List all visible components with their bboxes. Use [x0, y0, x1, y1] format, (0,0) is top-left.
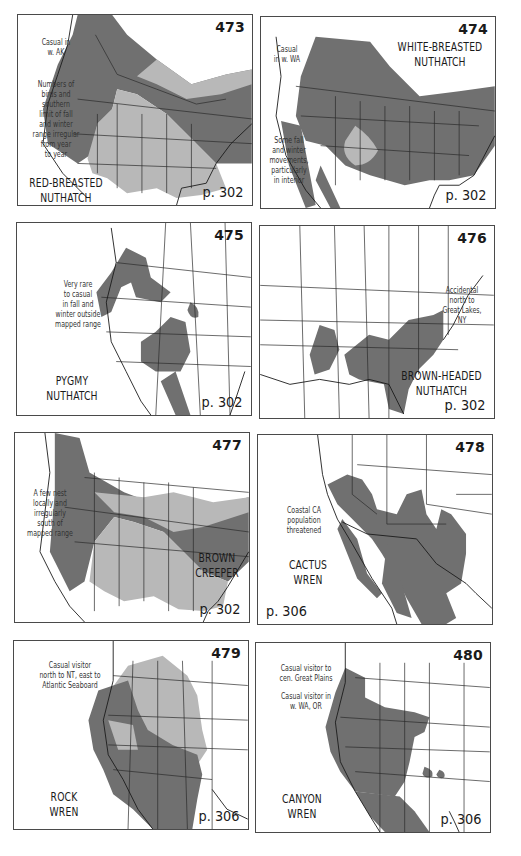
species-name: RED-BREASTED NUTHATCH — [27, 175, 106, 205]
range-southeast — [344, 310, 443, 414]
species-name: PYGMY NUTHATCH — [43, 373, 100, 403]
range-map-474: 474 WHITE-BREASTED NUTHATCH Casual in w.… — [260, 16, 496, 209]
page-reference: p. 306 — [199, 808, 240, 824]
range-note: Numbers of birds and southern limit of f… — [25, 79, 86, 159]
map-number: 475 — [214, 227, 244, 243]
page-reference: p. 302 — [445, 397, 486, 413]
resident-range-south — [355, 791, 429, 832]
range-map-478: 478 Coastal CA population threatened CAC… — [257, 434, 493, 625]
page-reference: p. 306 — [441, 811, 482, 827]
species-name: CANYON WREN — [277, 791, 326, 821]
range-note: Casual visitor to cen. Great Plains — [274, 663, 339, 683]
species-name: ROCK WREN — [39, 789, 88, 819]
species-name: CACTUS WREN — [283, 557, 332, 587]
species-name: BROWN CREEPER — [192, 550, 241, 580]
page-reference: p. 302 — [200, 601, 241, 617]
species-name: WHITE-BREASTED NUTHATCH — [395, 39, 485, 69]
map-number: 476 — [457, 230, 487, 246]
resident-range — [326, 668, 430, 797]
range-note: Very rare to casual in fall and winter o… — [50, 279, 106, 329]
range-note: Accidental north to Great Lakes, NY — [437, 285, 488, 325]
range-west — [310, 325, 340, 374]
range-note: Casual visitor in w. WA, OR — [274, 691, 339, 711]
range-map-480: 480 Casual visitor to cen. Great Plains … — [255, 642, 491, 833]
range-note: A few nest locally and irregularly south… — [25, 488, 74, 538]
page-reference: p. 306 — [266, 603, 307, 619]
range-map-476: 476 Accidental north to Great Lakes, NY … — [259, 225, 495, 419]
map-number: 480 — [453, 647, 483, 663]
map-number: 479 — [211, 645, 241, 661]
range-note: Casual in w. WA — [268, 44, 305, 64]
range-note: Casual visitor north to NT, east to Atla… — [36, 660, 104, 690]
range-map-473: 473 Casual in w. AK Numbers of birds and… — [17, 14, 253, 206]
range-isolated — [187, 302, 198, 318]
range-note: Coastal CA population threatened — [284, 505, 325, 535]
map-number: 474 — [458, 21, 488, 37]
range-south — [141, 317, 190, 415]
range-map-479: 479 Casual visitor north to NT, east to … — [13, 640, 249, 830]
range-note: Some fall and winter movements, particul… — [267, 135, 311, 185]
page-reference: p. 302 — [202, 394, 243, 410]
species-name: BROWN-HEADED NUTHATCH — [398, 368, 484, 398]
page-reference: p. 302 — [203, 184, 244, 200]
page-reference: p. 302 — [446, 187, 487, 203]
range-north — [96, 248, 170, 317]
map-number: 477 — [212, 437, 242, 453]
range-map-477: 477 A few nest locally and irregularly s… — [14, 432, 250, 623]
map-number: 478 — [455, 439, 485, 455]
map-number: 473 — [215, 19, 245, 35]
range-isolated — [422, 767, 444, 778]
range-note: Casual in w. AK — [31, 37, 82, 57]
range-map-475: 475 Very rare to casual in fall and wint… — [16, 222, 252, 416]
